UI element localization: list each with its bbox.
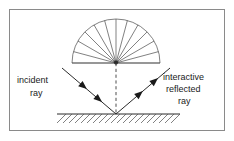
incident-label-line1: incident bbox=[17, 75, 49, 85]
reflection-diagram: incident ray interactive reflected ray bbox=[0, 0, 234, 141]
reflected-label-line2: reflected bbox=[166, 84, 201, 94]
figure-container: incident ray interactive reflected ray bbox=[0, 0, 234, 141]
reflected-label-line1: interactive bbox=[163, 72, 204, 82]
incident-label-line2: ray bbox=[30, 88, 43, 98]
figure-border bbox=[10, 10, 225, 131]
reflected-label-line3: ray bbox=[178, 96, 191, 106]
